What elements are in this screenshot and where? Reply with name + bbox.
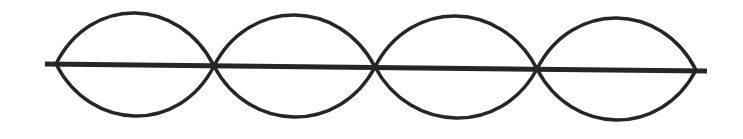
loop-lower-curve <box>56 64 214 116</box>
loop-upper-curve <box>56 13 214 66</box>
standing-wave-diagram <box>0 0 743 139</box>
loop-lower-curve <box>214 66 375 117</box>
loop-lower-curve <box>537 69 696 120</box>
loop-upper-curve <box>537 18 696 70</box>
loop-lower-curve <box>375 67 537 118</box>
loop-upper-curve <box>214 15 375 67</box>
loop-upper-curve <box>375 16 537 69</box>
